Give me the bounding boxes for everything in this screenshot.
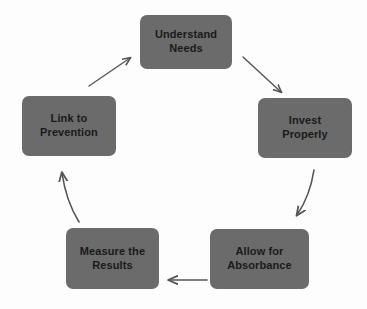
node-understand-needs[interactable]: Understand Needs — [140, 15, 232, 69]
node-label-measure-the-results: Measure the Results — [80, 245, 145, 273]
node-label-invest-properly: Invest Properly — [282, 114, 327, 142]
node-label-link-to-prevention: Link to Prevention — [40, 112, 98, 140]
arrow-understand-to-invest — [243, 57, 281, 92]
node-label-understand-needs: Understand Needs — [155, 28, 217, 56]
node-label-allow-for-absorbance: Allow for Absorbance — [227, 245, 292, 273]
cycle-diagram: Understand Needs Invest Properly Allow f… — [0, 0, 367, 309]
arrow-link-to-understand — [89, 58, 130, 86]
node-invest-properly[interactable]: Invest Properly — [258, 98, 352, 158]
arrow-invest-to-absorbance — [297, 170, 314, 215]
node-measure-the-results[interactable]: Measure the Results — [66, 228, 159, 289]
node-allow-for-absorbance[interactable]: Allow for Absorbance — [210, 229, 309, 289]
node-link-to-prevention[interactable]: Link to Prevention — [22, 96, 116, 156]
arrow-measure-to-link — [62, 173, 79, 222]
